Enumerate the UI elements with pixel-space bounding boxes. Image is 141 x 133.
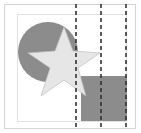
square-shape xyxy=(81,76,127,121)
diagram-canvas xyxy=(0,0,141,133)
